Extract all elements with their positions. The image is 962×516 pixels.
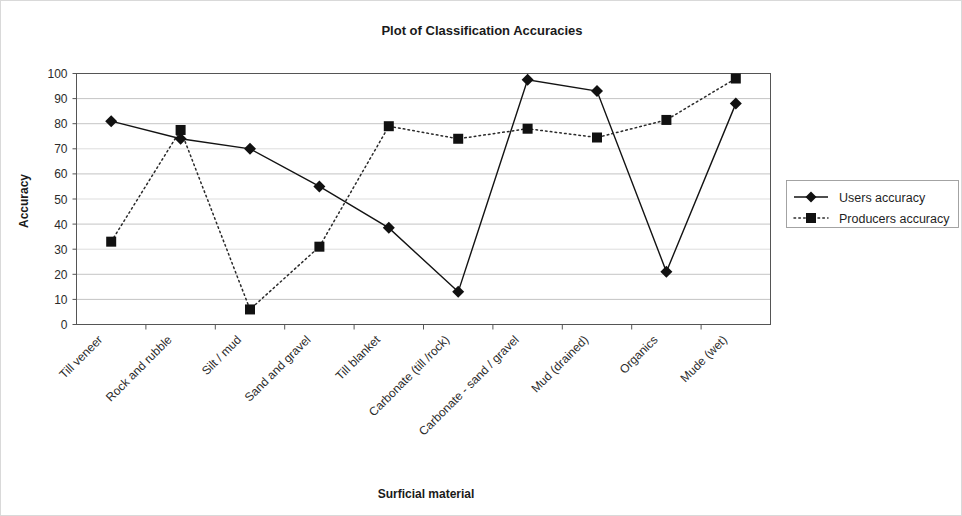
y-tick-label: 80 <box>54 117 68 131</box>
x-category-label: Mude (wet) <box>678 333 730 385</box>
y-axis-title: Accuracy <box>17 174 31 228</box>
x-tick-marks <box>146 325 701 330</box>
data-point-marker <box>453 134 463 144</box>
data-point-marker <box>176 125 186 135</box>
data-point-marker <box>661 115 671 125</box>
data-point-marker <box>522 74 534 86</box>
data-point-marker <box>384 121 394 131</box>
legend-entry-label: Users accuracy <box>839 191 926 205</box>
y-tick-labels: 0102030405060708090100 <box>47 67 67 332</box>
chart-page: Plot of Classification Accuracies Accura… <box>0 0 962 516</box>
data-point-marker <box>245 304 255 314</box>
data-point-marker <box>660 266 672 278</box>
x-category-label: Till blanket <box>333 332 384 383</box>
y-tick-label: 90 <box>54 92 68 106</box>
y-tick-label: 0 <box>61 318 68 332</box>
y-tick-label: 30 <box>54 243 68 257</box>
y-tick-label: 40 <box>54 218 68 232</box>
y-tick-label: 50 <box>54 193 68 207</box>
data-point-marker <box>731 74 741 84</box>
y-tick-label: 10 <box>54 293 68 307</box>
data-point-marker <box>313 180 325 192</box>
x-category-label: Sand and gravel <box>242 333 314 405</box>
data-point-marker <box>244 143 256 155</box>
y-tick-marks <box>73 74 77 325</box>
x-category-label: Rock and rubble <box>103 332 175 404</box>
x-category-labels: Till veneerRock and rubbleSilt / mudSand… <box>57 332 730 438</box>
y-tick-label: 60 <box>54 167 68 181</box>
series-line-1 <box>111 80 736 292</box>
x-category-label: Silt / mud <box>199 333 244 378</box>
data-point-marker <box>523 124 533 134</box>
data-point-marker <box>591 85 603 97</box>
y-tick-label: 70 <box>54 142 68 156</box>
data-point-marker <box>730 98 742 110</box>
data-point-marker <box>592 133 602 143</box>
data-point-marker <box>105 115 117 127</box>
legend-entry-label: Producers accuracy <box>839 212 950 226</box>
classification-accuracy-chart: Plot of Classification Accuracies Accura… <box>1 1 961 515</box>
gridlines <box>77 74 771 325</box>
y-tick-label: 20 <box>54 268 68 282</box>
data-series-layer <box>105 74 742 315</box>
x-category-label: Organics <box>617 333 661 377</box>
x-category-label: Mud (drained) <box>528 333 591 396</box>
y-tick-label: 100 <box>47 67 67 81</box>
chart-canvas: Plot of Classification Accuracies Accura… <box>1 1 962 516</box>
data-point-marker <box>106 237 116 247</box>
chart-title: Plot of Classification Accuracies <box>381 23 582 38</box>
legend-marker-square-icon <box>806 213 816 223</box>
chart-legend: Users accuracyProducers accuracy <box>787 181 959 228</box>
x-category-label: Till veneer <box>57 333 106 382</box>
series-line-2 <box>111 79 736 310</box>
x-axis-title: Surficial material <box>378 487 475 501</box>
data-point-marker <box>314 242 324 252</box>
